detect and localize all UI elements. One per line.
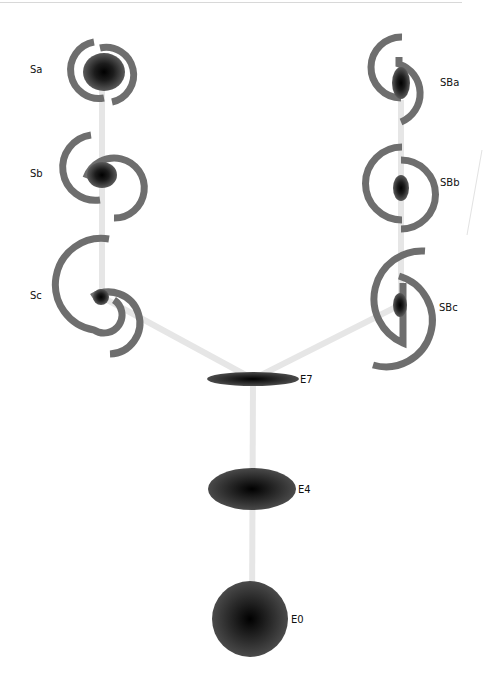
galaxy-e4: E4 (208, 468, 311, 510)
label-sb: Sb (30, 168, 43, 179)
galaxy-e0: E0 (212, 581, 304, 657)
galaxy-sbb: SBb (366, 147, 460, 229)
label-e0: E0 (291, 614, 304, 625)
label-sbc: SBc (439, 302, 458, 313)
label-sc: Sc (30, 290, 42, 301)
galaxy-e7: E7 (207, 372, 313, 386)
label-sba: SBa (440, 77, 459, 88)
label-e7: E7 (300, 374, 313, 385)
galaxy-sb: Sb (30, 135, 144, 218)
galaxy-sa: Sa (30, 42, 134, 102)
label-e4: E4 (298, 484, 311, 495)
galaxy-sc: Sc (30, 238, 140, 354)
connector-lines (100, 90, 401, 618)
tuning-fork-diagram: Sa Sb Sc SBa SBb SBc E7 (0, 0, 489, 687)
label-sbb: SBb (440, 177, 460, 188)
label-sa: Sa (30, 64, 42, 75)
edge-mark (467, 150, 482, 235)
galaxy-sba: SBa (371, 37, 459, 122)
